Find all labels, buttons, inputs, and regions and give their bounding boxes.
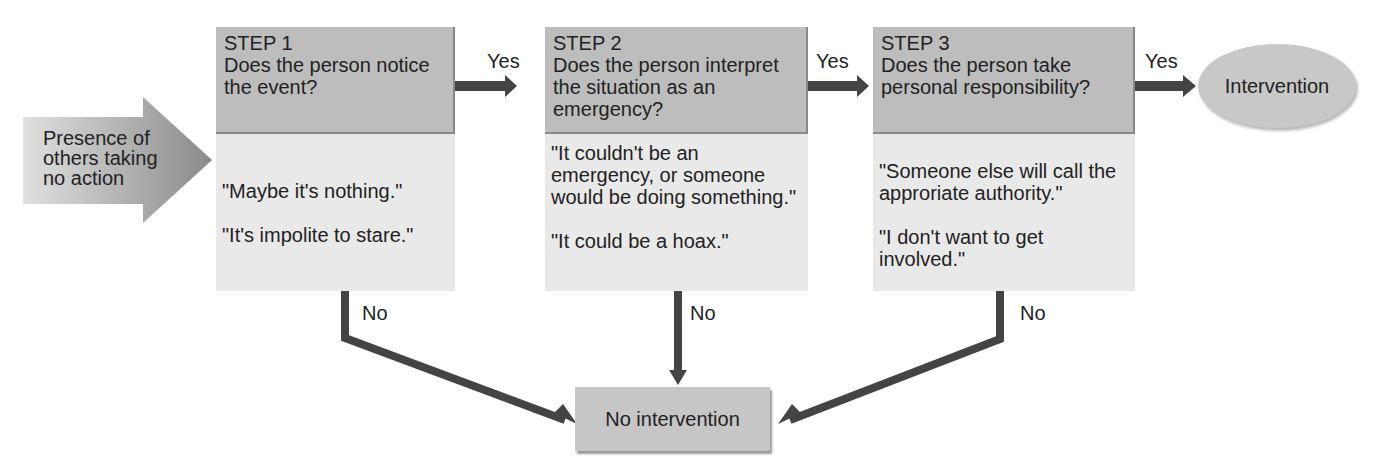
excuse: "It could be a hoax." [551, 230, 802, 252]
step-3-excuses: "Someone else will call the approriate a… [873, 134, 1135, 291]
step-2-excuses: "It couldn't be an emergency, or someone… [545, 134, 808, 291]
excuse: "I don't want to get involved." [879, 226, 1129, 270]
step-1-excuses: "Maybe it's nothing." "It's impolite to … [216, 134, 455, 291]
intervention-outcome: Intervention [1198, 44, 1356, 128]
no-label: No [1020, 302, 1046, 325]
yes-label: Yes [1145, 50, 1178, 73]
step-3-header: STEP 3 Does the person take personal res… [873, 27, 1135, 134]
no-intervention-outcome: No intervention [575, 387, 770, 451]
excuse: "It couldn't be an emergency, or someone… [551, 142, 802, 208]
input-line: no action [43, 168, 158, 188]
input-line: others taking [43, 148, 158, 168]
excuse: "It's impolite to stare." [222, 224, 449, 246]
input-line: Presence of [43, 128, 158, 148]
step-title: STEP 3 [881, 32, 1125, 54]
no-label: No [690, 302, 716, 325]
no-label: No [362, 302, 388, 325]
excuse: "Maybe it's nothing." [222, 180, 449, 202]
input-label: Presence of others taking no action [43, 128, 158, 188]
step-title: STEP 1 [224, 32, 445, 54]
step-question: Does the person take personal responsibi… [881, 54, 1125, 98]
step-title: STEP 2 [553, 32, 798, 54]
yes-label: Yes [816, 50, 849, 73]
step-2-header: STEP 2 Does the person interpret the sit… [545, 27, 808, 134]
excuse: "Someone else will call the approriate a… [879, 160, 1129, 204]
step-1-header: STEP 1 Does the person notice the event? [216, 27, 455, 134]
step-question: Does the person notice the event? [224, 54, 445, 98]
yes-label: Yes [487, 50, 520, 73]
step-question: Does the person interpret the situation … [553, 54, 798, 120]
